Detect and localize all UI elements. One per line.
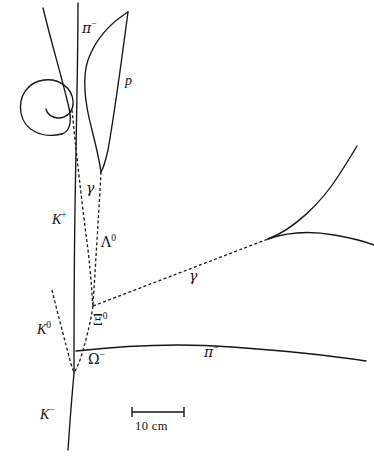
- label-proton: p: [125, 74, 132, 88]
- label-pi-minus-bottom: π−: [204, 345, 219, 360]
- lambda-zero-charge: 0: [111, 233, 116, 243]
- scale-bar: [132, 407, 184, 417]
- pi-minus-lower-track: [76, 345, 366, 361]
- xi-glyph: Ξ: [93, 312, 103, 328]
- spiral-loop-icon: [20, 80, 73, 136]
- omega-minus-charge: −: [100, 350, 105, 360]
- k-minus-track: [68, 373, 74, 450]
- bubble-chamber-diagram: π− p γ K+ Λ0 γ Ξ0 K0 Ω− π− K− 10 cm: [0, 0, 374, 457]
- proton-track: [101, 12, 128, 172]
- pi-glyph: π: [82, 20, 91, 36]
- xi-zero-charge: 0: [103, 311, 108, 321]
- particle-track-canvas: [0, 0, 374, 457]
- gamma-glyph-left: γ: [86, 180, 94, 196]
- label-k-plus: K+: [52, 213, 67, 227]
- scale-bar-caption: 10 cm: [135, 419, 168, 434]
- pair-electron-lower-track: [268, 233, 374, 245]
- pi-glyph-bottom: π: [204, 344, 213, 360]
- label-gamma-right: γ: [189, 269, 197, 284]
- k-plus-track: [74, 3, 78, 373]
- pair-electron-upper-track: [268, 146, 357, 239]
- pi-minus-upper-track: [85, 12, 128, 172]
- k-plus-charge: +: [61, 210, 66, 220]
- label-lambda-zero: Λ0: [101, 235, 116, 250]
- gamma-glyph-right: γ: [189, 268, 197, 284]
- k-minus-charge: −: [49, 405, 54, 415]
- pi-minus-bottom-charge: −: [213, 343, 218, 353]
- k-plus-glyph: K: [52, 212, 61, 227]
- lambda-glyph: Λ: [101, 234, 111, 250]
- label-omega-minus: Ω−: [88, 352, 105, 367]
- gamma-right-dashed: [93, 239, 268, 306]
- k-zero-dashed: [52, 290, 74, 373]
- k-zero-glyph: K: [37, 322, 46, 337]
- k-zero-charge: 0: [46, 320, 51, 330]
- label-gamma-left: γ: [86, 181, 94, 196]
- label-k-minus: K−: [40, 408, 55, 422]
- omega-glyph: Ω: [88, 351, 100, 367]
- label-pi-minus-top: π−: [82, 21, 97, 36]
- label-k-zero: K0: [37, 323, 51, 337]
- k-minus-glyph: K: [40, 407, 49, 422]
- pi-minus-top-charge: −: [91, 19, 96, 29]
- proton-glyph: p: [125, 73, 132, 88]
- label-xi-zero: Ξ0: [93, 313, 108, 328]
